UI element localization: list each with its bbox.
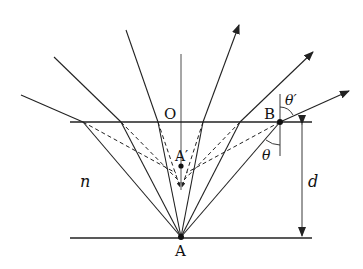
label-O: O [164,105,176,123]
label-theta-prime: θ′ [285,92,297,108]
refraction-diagram: O A A′ B θ′ θ n d [0,0,363,269]
rays-in-medium [83,122,280,237]
label-n: n [80,172,90,191]
refracted-rays [21,25,349,122]
label-A-prime: A′ [174,148,188,164]
theta-prime-arc [280,107,293,115]
point-A-prime [178,163,183,168]
label-A: A [174,242,186,260]
diagram-canvas: O A A′ B θ′ θ n d [0,0,363,269]
label-d: d [308,172,318,191]
point-B [277,119,283,125]
point-A [178,234,184,240]
label-B: B [264,105,275,123]
label-theta: θ [262,147,271,163]
theta-arc [266,140,280,145]
